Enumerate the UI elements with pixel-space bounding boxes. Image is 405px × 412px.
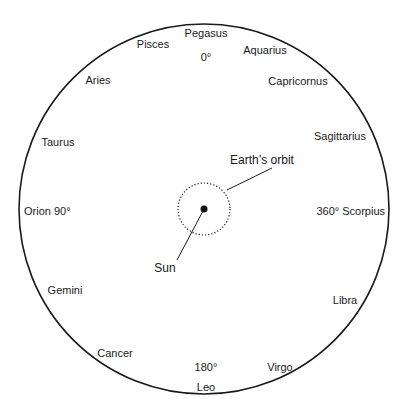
sun-leader-line (177, 211, 203, 260)
constellation-label-libra: Libra (333, 294, 358, 306)
degree-label: 180° (195, 361, 218, 373)
degree-label: 0° (201, 51, 212, 63)
constellation-label-aries: Aries (85, 74, 111, 86)
degree-labels: 0°180° (195, 51, 218, 373)
zodiac-diagram: PegasusPiscesAquariusAriesCapricornusSag… (0, 0, 405, 412)
constellation-label-pegasus: Pegasus (185, 27, 228, 39)
constellation-label-orion: Orion 90° (24, 205, 71, 217)
sun-icon (201, 206, 208, 213)
constellation-label-aquarius: Aquarius (243, 44, 287, 56)
constellation-label-taurus: Taurus (41, 136, 75, 148)
constellation-label-virgo: Virgo (267, 361, 292, 373)
constellation-label-gemini: Gemini (48, 284, 83, 296)
constellation-label-cancer: Cancer (97, 347, 133, 359)
sun-label: Sun (154, 261, 175, 275)
constellation-label-sagittarius: Sagittarius (314, 130, 366, 142)
constellation-label-scorpius: 360° Scorpius (316, 205, 385, 217)
constellation-label-pisces: Pisces (137, 38, 170, 50)
earth-orbit-label: Earth’s orbit (230, 153, 294, 167)
earth-orbit-leader-line (227, 168, 272, 190)
constellation-label-capricornus: Capricornus (268, 75, 328, 87)
constellation-label-leo: Leo (197, 381, 215, 393)
